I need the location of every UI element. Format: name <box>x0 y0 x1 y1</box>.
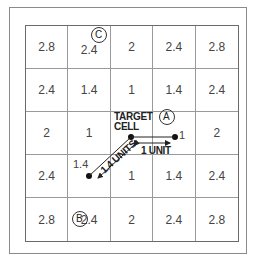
point-a-label: A <box>163 112 169 122</box>
point-a-value: 1 <box>179 129 185 141</box>
point-b-label: B <box>76 214 82 224</box>
target-cell-label-line2: CELL <box>114 122 139 132</box>
point-c-label: C <box>95 30 102 40</box>
horizontal-distance-label: 1 UNIT <box>141 146 171 156</box>
point-b-value: 1.4 <box>73 158 88 170</box>
